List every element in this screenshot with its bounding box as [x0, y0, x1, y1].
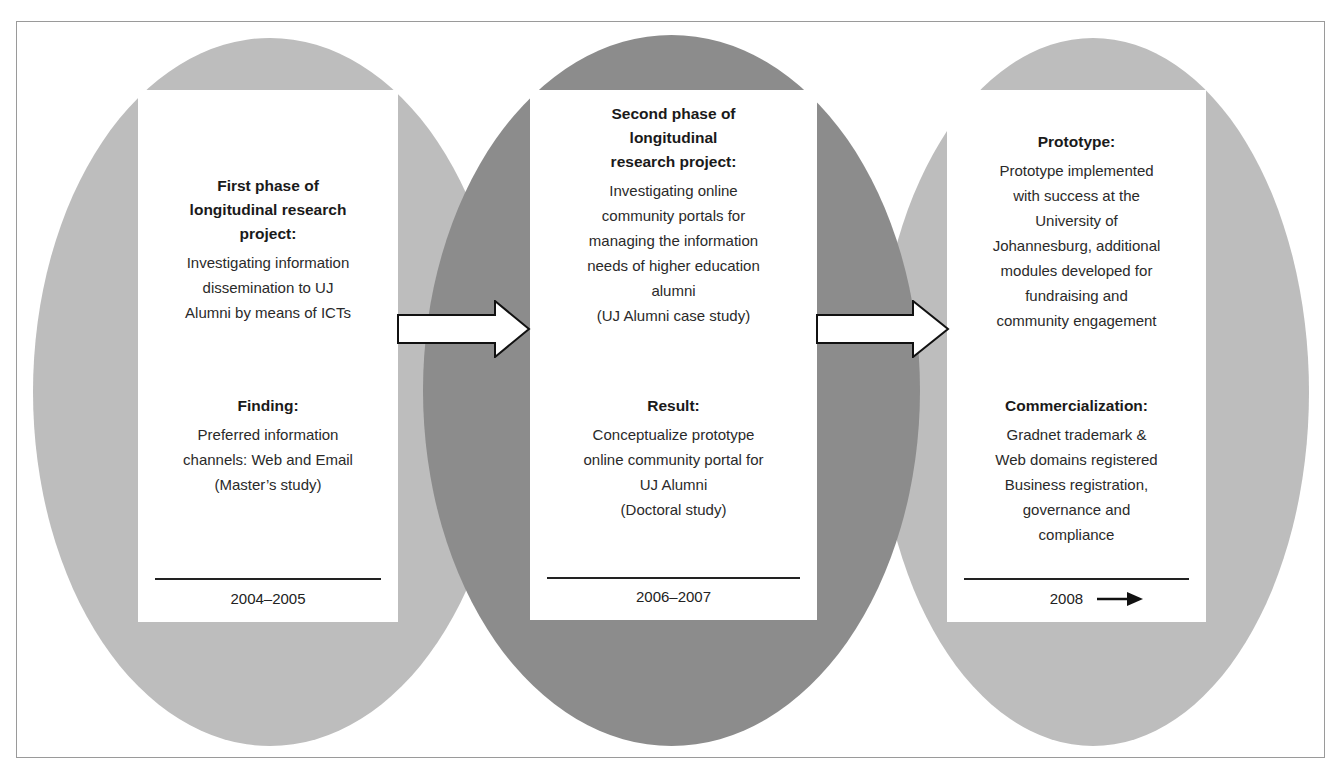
phase-1-description: Investigating information dissemination … — [146, 250, 390, 325]
block-arrow-right-icon — [816, 300, 950, 362]
body-line: Conceptualize prototype — [538, 422, 809, 447]
date-divider — [155, 578, 381, 580]
prototype-description: Prototype implemented with success at th… — [955, 158, 1198, 333]
heading-line: research project: — [538, 150, 809, 174]
body-line: Johannesburg, additional — [955, 233, 1198, 258]
commercialization-heading: Commercialization: — [955, 394, 1198, 418]
finding-heading: Finding: — [146, 394, 390, 418]
heading-line: First phase of — [146, 174, 390, 198]
body-line: governance and — [955, 497, 1198, 522]
phase-1-date: 2004–2005 — [138, 590, 398, 607]
body-line: Business registration, — [955, 472, 1198, 497]
body-line: Gradnet trademark & — [955, 422, 1198, 447]
phase-2-description: Investigating online community portals f… — [538, 178, 809, 328]
body-line: (Master’s study) — [146, 472, 390, 497]
phase-2-section-1: Second phase of longitudinal research pr… — [530, 102, 817, 328]
heading-line: Second phase of — [538, 102, 809, 126]
phase-1-heading: First phase of longitudinal research pro… — [146, 174, 390, 246]
result-heading: Result: — [538, 394, 809, 418]
body-line: dissemination to UJ — [146, 275, 390, 300]
body-line: needs of higher education — [538, 253, 809, 278]
body-line: (UJ Alumni case study) — [538, 303, 809, 328]
phase-1-section-2: Finding: Preferred information channels:… — [138, 394, 398, 497]
phase-3-card: Prototype: Prototype implemented with su… — [947, 90, 1206, 622]
body-line: UJ Alumni — [538, 472, 809, 497]
body-line: fundraising and — [955, 283, 1198, 308]
body-line: channels: Web and Email — [146, 447, 390, 472]
phase-3-date: 2008 — [947, 590, 1206, 610]
body-line: managing the information — [538, 228, 809, 253]
phase-1-card: First phase of longitudinal research pro… — [138, 90, 398, 622]
body-line: with success at the — [955, 183, 1198, 208]
body-line: community portals for — [538, 203, 809, 228]
block-arrow-right-icon — [397, 300, 531, 362]
result-description: Conceptualize prototype online community… — [538, 422, 809, 522]
body-line: compliance — [955, 522, 1198, 547]
body-line: Prototype implemented — [955, 158, 1198, 183]
date-divider — [547, 577, 800, 579]
body-line: University of — [955, 208, 1198, 233]
body-line: community engagement — [955, 308, 1198, 333]
heading-line: longitudinal — [538, 126, 809, 150]
body-line: Web domains registered — [955, 447, 1198, 472]
body-line: alumni — [538, 278, 809, 303]
phase-3-section-2: Commercialization: Gradnet trademark & W… — [947, 394, 1206, 547]
phase-2-section-2: Result: Conceptualize prototype online c… — [530, 394, 817, 522]
body-line: online community portal for — [538, 447, 809, 472]
commercialization-description: Gradnet trademark & Web domains register… — [955, 422, 1198, 547]
body-line: Investigating information — [146, 250, 390, 275]
phase-3-date-text: 2008 — [1050, 590, 1083, 607]
phase-2-date: 2006–2007 — [530, 588, 817, 605]
date-divider — [964, 578, 1189, 580]
body-line: Preferred information — [146, 422, 390, 447]
arrow-right-icon — [1097, 591, 1143, 610]
phase-3-section-1: Prototype: Prototype implemented with su… — [947, 130, 1206, 333]
body-line: modules developed for — [955, 258, 1198, 283]
phase-2-heading: Second phase of longitudinal research pr… — [538, 102, 809, 174]
heading-line: project: — [146, 222, 390, 246]
phase-1-section-1: First phase of longitudinal research pro… — [138, 174, 398, 325]
body-line: Investigating online — [538, 178, 809, 203]
body-line: (Doctoral study) — [538, 497, 809, 522]
heading-line: longitudinal research — [146, 198, 390, 222]
prototype-heading: Prototype: — [955, 130, 1198, 154]
finding-description: Preferred information channels: Web and … — [146, 422, 390, 497]
body-line: Alumni by means of ICTs — [146, 300, 390, 325]
phase-2-card: Second phase of longitudinal research pr… — [530, 90, 817, 620]
